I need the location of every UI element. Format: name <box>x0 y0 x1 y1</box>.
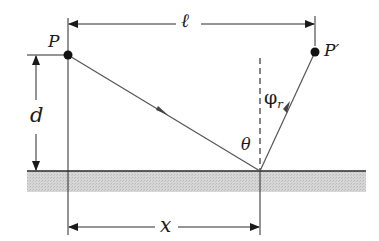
point-P <box>64 51 73 60</box>
reflection-diagram: P P′ ℓ d x θ φr <box>0 0 379 241</box>
label-P: P <box>48 33 59 50</box>
incident-ray <box>68 55 260 171</box>
label-P-prime: P′ <box>324 42 339 59</box>
phi-symbol: φ <box>264 86 277 108</box>
label-theta: θ <box>241 137 251 153</box>
label-d: d <box>30 105 43 126</box>
label-x: x <box>160 215 171 235</box>
reflected-ray <box>260 52 315 171</box>
extension-lines <box>27 16 315 235</box>
label-l: ℓ <box>181 11 189 30</box>
phi-subscript: r <box>277 97 283 111</box>
label-phi-r: φr <box>264 88 283 110</box>
point-P-prime <box>311 48 320 57</box>
reflecting-surface <box>27 171 366 192</box>
